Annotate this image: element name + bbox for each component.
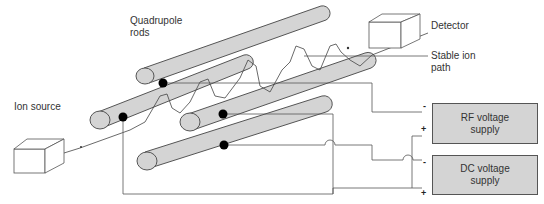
stable-ion-path-label: Stable ion path xyxy=(431,50,475,74)
quadrupole-diagram: Quadrupole rods Ion source Detector Stab… xyxy=(0,0,544,204)
rf-voltage-supply: RF voltage supply xyxy=(432,103,538,144)
dc-minus-sign: - xyxy=(423,157,426,167)
rod-top-end xyxy=(136,68,154,84)
rf-plus-sign: + xyxy=(421,124,426,134)
ion-source-box xyxy=(14,139,64,173)
rod-bottom-end xyxy=(137,152,157,170)
rf-minus-sign: - xyxy=(423,101,426,111)
dc-plus-sign: + xyxy=(421,188,426,198)
rod-left-end xyxy=(90,111,110,129)
detector-label: Detector xyxy=(431,20,469,32)
dc-voltage-supply: DC voltage supply xyxy=(432,155,538,195)
rod-right-end xyxy=(180,113,200,131)
detector-box xyxy=(369,14,420,48)
quadrupole-rods-label: Quadrupole rods xyxy=(130,15,182,39)
ion-source-label: Ion source xyxy=(14,101,61,113)
